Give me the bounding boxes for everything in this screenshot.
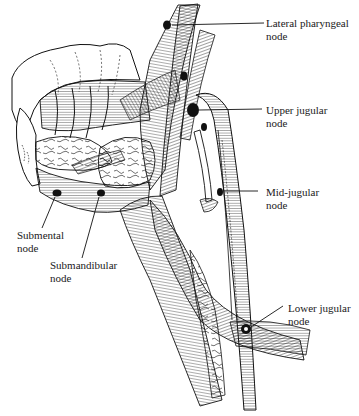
label-upper-jugular-node: Upper jugular node (266, 104, 327, 129)
lower-neck-muscles (120, 196, 310, 406)
node-submental-marker (53, 190, 62, 197)
leader-submental (42, 197, 55, 228)
node-upper-jugular-a-marker (181, 72, 188, 81)
label-submental-node: Submental node (17, 229, 64, 254)
label-submandibular-node: Submandibular node (50, 259, 117, 284)
node-upper-jugular-marker (187, 103, 199, 117)
node-upper-jugular-b-marker (201, 123, 207, 131)
node-lateral-pharyngeal-marker (163, 21, 171, 30)
label-mid-jugular-node: Mid-jugular node (266, 186, 319, 211)
label-lateral-pharyngeal-node: Lateral pharyngeal node (266, 17, 349, 42)
leader-upper-jugular (199, 109, 262, 110)
node-submandibular-marker (97, 190, 105, 197)
node-mid-jugular-marker (217, 188, 223, 196)
label-lower-jugular-node: Lower jugular node (288, 302, 351, 327)
